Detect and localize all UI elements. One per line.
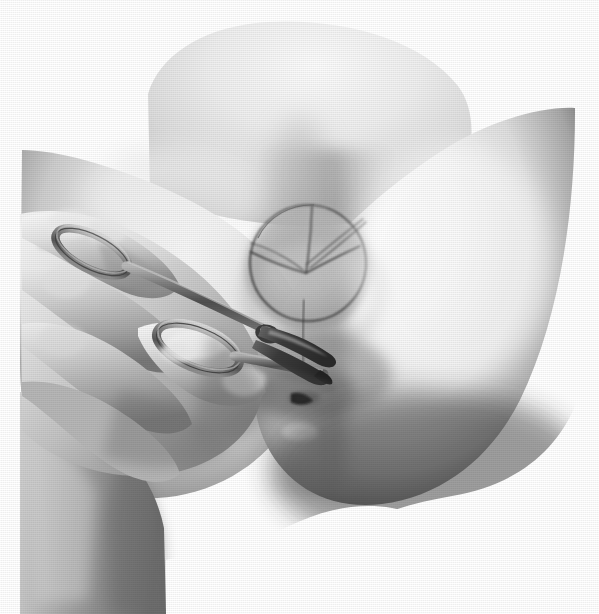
mask-right-margin (575, 0, 599, 614)
mask-left-margin (0, 140, 20, 614)
cleft-core-shadow (266, 118, 334, 282)
left-buttock-highlight (80, 144, 272, 248)
illustration-svg (0, 0, 599, 614)
anal-orifice-mark (288, 391, 320, 405)
medical-illustration-figure: Anorectal surgical procedure illustratio… (0, 0, 599, 614)
ring-knuckle (38, 324, 86, 356)
right-buttock-highlight (350, 142, 554, 382)
